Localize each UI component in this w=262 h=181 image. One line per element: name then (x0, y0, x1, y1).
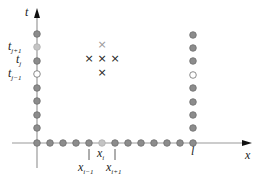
stencil-mark-center: × (97, 52, 106, 65)
grid-node (190, 125, 197, 132)
grid-node (190, 32, 197, 39)
label-x-i-plus-1: xi+1 (105, 160, 122, 176)
label-x-i-minus-1: xi−1 (77, 160, 94, 176)
grid-node (34, 112, 41, 119)
grid-node-tj1 (34, 44, 41, 51)
stencil-mark-bottom: × (97, 66, 106, 79)
stencil-mark-left: × (84, 52, 93, 65)
grid-node (34, 98, 41, 105)
grid-node (34, 31, 41, 38)
grid-node (190, 112, 197, 119)
t-axis-arrow-icon (34, 8, 40, 18)
grid-node (190, 85, 197, 92)
grid-node-hollow (190, 72, 197, 79)
grid-node (177, 140, 184, 147)
grid-node-tj (34, 58, 41, 65)
grid-node (34, 125, 41, 132)
t-axis-label: t (25, 5, 29, 19)
t-labels: tj+1 tj tj−1 (8, 39, 22, 82)
grid-node (47, 140, 54, 147)
grid-node (34, 85, 41, 92)
grid-node-xim1 (86, 140, 93, 147)
grid-node (151, 140, 158, 147)
finite-difference-grid-diagram: x t l (0, 0, 262, 181)
label-t-j-plus-1: tj+1 (8, 39, 22, 55)
grid-node (164, 140, 171, 147)
grid-node-xip1 (112, 140, 119, 147)
label-t-j-minus-1: tj−1 (8, 66, 22, 82)
grid-node (125, 140, 132, 147)
x-axis-label: x (244, 148, 251, 162)
grid-node (190, 45, 197, 52)
grid-node-origin (34, 140, 41, 147)
stencil: × × × × × (84, 38, 119, 79)
grid-node-tjm1 (34, 71, 41, 78)
grid-node (60, 140, 67, 147)
stencil-mark-top: × (97, 38, 106, 51)
x-axis-arrow-icon (242, 140, 252, 146)
right-boundary-nodes (190, 32, 197, 132)
grid-node (190, 58, 197, 65)
label-x-i: xi (96, 146, 104, 162)
grid-node-l (190, 140, 197, 147)
grid-node (190, 99, 197, 106)
grid-node (138, 140, 145, 147)
grid-node (73, 140, 80, 147)
stencil-mark-right: × (110, 52, 119, 65)
